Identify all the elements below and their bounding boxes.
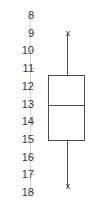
y-axis-tick-label: 14 bbox=[6, 116, 34, 127]
y-axis-tick-label: 8 bbox=[6, 10, 34, 21]
y-axis-tick-label: 13 bbox=[6, 99, 34, 110]
y-axis-tick-label: 16 bbox=[6, 152, 34, 163]
y-axis-tick-label: 10 bbox=[6, 45, 34, 56]
upper-whisker bbox=[67, 34, 68, 75]
y-axis-tick-label: 11 bbox=[6, 63, 34, 74]
lower-whisker-marker: x bbox=[63, 182, 73, 191]
y-axis-tick-label: 9 bbox=[6, 28, 34, 39]
y-axis-tick-label: 17 bbox=[6, 169, 34, 180]
y-axis-tick-label: 12 bbox=[6, 81, 34, 92]
upper-whisker-marker: x bbox=[63, 29, 73, 38]
y-axis-tick-label: 18 bbox=[6, 187, 34, 198]
box-body bbox=[48, 75, 85, 141]
y-axis-tick-label: 15 bbox=[6, 134, 34, 145]
boxplot-chart: 89101112131415161718 x x bbox=[0, 0, 92, 207]
median-line bbox=[48, 105, 85, 106]
